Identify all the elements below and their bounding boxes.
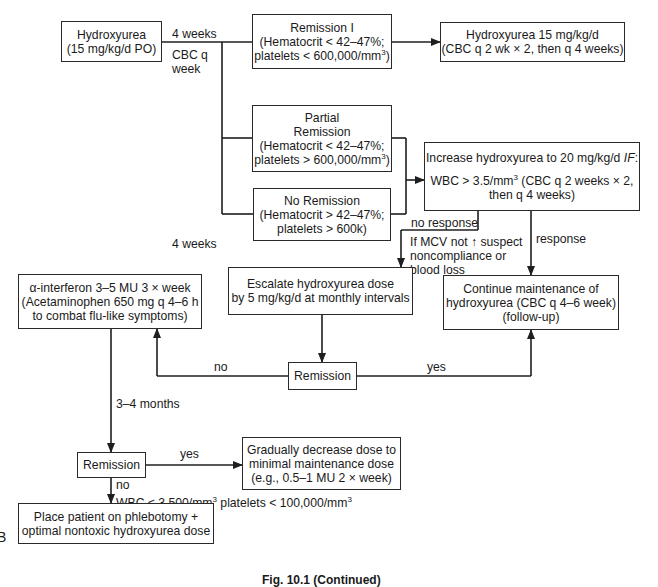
hydroxyurea-15-line-1: Hydroxyurea 15 mg/kg/d (466, 28, 599, 42)
label-response: response (536, 232, 586, 246)
remission-1-platelets: platelets < 600,000/mm3) (254, 49, 390, 63)
no-remission-line-3: platelets > 600k) (277, 222, 367, 236)
partial-remission-line-2: Remission (294, 125, 351, 139)
no-remission-box: No Remission (Hematocrit > 42–47%; plate… (253, 188, 391, 241)
interferon-box: α-interferon 3–5 MU 3 × week (Acetaminop… (18, 274, 202, 329)
label-no-response: no response (411, 216, 478, 230)
start-line-2: (15 mg/kg/d PO) (67, 42, 156, 56)
interferon-line-2: (Acetaminophen 650 mg q 4–6 h (22, 295, 199, 309)
decrease-line-3: (e.g., 0.5–1 MU 2 × week) (251, 471, 392, 485)
panel-letter: B (0, 530, 6, 544)
interferon-line-1: α-interferon 3–5 MU 3 × week (29, 281, 190, 295)
continue-line-3: (follow-up) (503, 310, 560, 324)
continue-maintenance-box: Continue maintenance of hydroxyurea (CBC… (443, 275, 619, 330)
start-line-1: Hydroxyurea (77, 28, 146, 42)
escalate-line-2: by 5 mg/kg/d at monthly intervals (231, 291, 409, 305)
no-remission-line-2: (Hematocrit > 42–47%; (260, 208, 385, 222)
partial-remission-platelets: platelets > 600,000/mm3) (254, 153, 390, 167)
phlebotomy-box: Place patient on phlebotomy + optimal no… (18, 503, 214, 544)
label-3-4-months: 3–4 months (116, 397, 180, 411)
decrease-line-2: minimal maintenance dose (249, 457, 394, 471)
escalate-hydroxyurea-box: Escalate hydroxyurea dose by 5 mg/kg/d a… (228, 267, 413, 315)
hydroxyurea-15-box: Hydroxyurea 15 mg/kg/d (CBC q 2 wk × 2, … (440, 22, 625, 62)
partial-remission-hematocrit: (Hematocrit < 42–47%; (260, 139, 385, 153)
remission-mid-box: Remission (288, 362, 357, 390)
label-4-weeks-mid: 4 weeks (172, 237, 217, 251)
label-cbc-q-week: CBC q week (172, 48, 208, 76)
continue-line-2: hydroxyurea (CBC q 4–6 week) (446, 296, 616, 310)
label-yes-lower: yes (180, 447, 199, 461)
figure-caption: Fig. 10.1 (Continued) (262, 573, 381, 587)
decrease-dose-box: Gradually decrease dose to minimal maint… (242, 437, 401, 490)
partial-remission-line-1: Partial (305, 111, 340, 125)
label-mcv-note: If MCV not ↑ suspect noncompliance or bl… (410, 235, 522, 277)
remission-mid-label: Remission (294, 369, 351, 383)
start-hydroxyurea-box: Hydroxyurea (15 mg/kg/d PO) (61, 21, 162, 62)
partial-remission-box: Partial Remission (Hematocrit < 42–47%; … (252, 105, 392, 172)
continue-line-1: Continue maintenance of (463, 282, 599, 296)
label-yes-mid: yes (427, 360, 446, 374)
increase-hydroxyurea-box: Increase hydroxyurea to 20 mg/kg/d IF: W… (424, 142, 640, 211)
no-remission-line-1: No Remission (284, 194, 360, 208)
phlebotomy-line-2: optimal nontoxic hydroxyurea dose (22, 524, 210, 538)
remission-1-hematocrit: (Hematocrit < 42–47%; (260, 35, 385, 49)
phlebotomy-line-1: Place patient on phlebotomy + (34, 510, 198, 524)
hydroxyurea-15-line-2: (CBC q 2 wk × 2, then q 4 weeks) (442, 42, 624, 56)
decrease-line-1: Gradually decrease dose to (247, 443, 396, 457)
remission-1-title: Remission I (290, 21, 354, 35)
interferon-line-3: to combat flu-like symptoms) (32, 309, 187, 323)
label-no-lower: no (116, 478, 130, 492)
increase-line-3: then q 4 weeks) (489, 188, 575, 202)
label-4-weeks-top: 4 weeks (172, 27, 217, 41)
remission-lower-box: Remission (77, 452, 146, 478)
escalate-line-1: Escalate hydroxyurea dose (247, 277, 394, 291)
label-no-mid: no (214, 360, 228, 374)
remission-1-box: Remission I (Hematocrit < 42–47%; platel… (252, 14, 392, 69)
increase-line-1: Increase hydroxyurea to 20 mg/kg/d IF: (426, 151, 638, 165)
remission-lower-label: Remission (83, 458, 140, 472)
increase-line-2: WBC > 3.5/mm3 (CBC q 2 weeks × 2, (431, 174, 634, 188)
